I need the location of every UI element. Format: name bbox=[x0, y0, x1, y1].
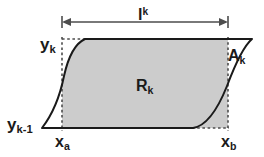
label-x-right-base: x bbox=[221, 133, 230, 150]
label-y-upper-subscript: k bbox=[49, 43, 55, 55]
label-length-lk: lk bbox=[138, 7, 148, 23]
label-length-superscript: k bbox=[142, 6, 148, 17]
label-y-lower-subscript: k-1 bbox=[16, 123, 32, 135]
label-x-left-base: x bbox=[55, 133, 64, 150]
dimension-arrowhead-right-icon bbox=[219, 18, 228, 26]
figure-region-rk: lk yk yk-1 xa xb Rk Ak bbox=[0, 0, 264, 157]
label-x-right-subscript: b bbox=[230, 140, 236, 152]
label-region-base: R bbox=[136, 77, 148, 94]
label-area-ak: Ak bbox=[228, 48, 245, 64]
label-x-left: xa bbox=[55, 134, 70, 150]
label-area-base: A bbox=[228, 47, 240, 64]
label-x-right: xb bbox=[221, 134, 236, 150]
label-y-upper: yk bbox=[40, 36, 56, 53]
dimension-arrowhead-left-icon bbox=[62, 18, 71, 26]
label-region-rk: Rk bbox=[136, 78, 153, 94]
label-y-lower: yk-1 bbox=[7, 116, 33, 133]
label-region-subscript: k bbox=[148, 84, 154, 96]
label-area-subscript: k bbox=[240, 54, 246, 66]
label-x-left-subscript: a bbox=[64, 140, 70, 152]
